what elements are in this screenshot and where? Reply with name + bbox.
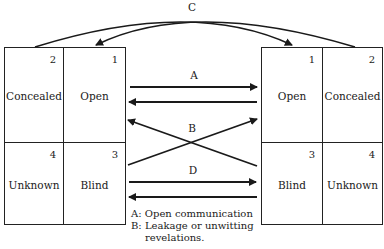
- cell-label: Blind: [64, 179, 125, 191]
- cell-number: 1: [112, 54, 118, 65]
- cell-label: Unknown: [5, 179, 63, 191]
- label-d: D: [185, 164, 201, 176]
- label-b: B: [184, 122, 200, 134]
- legend: A: Open communication B: Leakage or unwi…: [131, 208, 254, 244]
- cell-number: 3: [309, 149, 315, 160]
- cell-label: Open: [262, 90, 322, 102]
- left-cell-unknown: 4 Unknown: [5, 143, 64, 224]
- label-c: C: [184, 1, 200, 13]
- cell-label: Unknown: [323, 179, 382, 191]
- cell-label: Concealed: [323, 90, 382, 102]
- cell-label: Blind: [262, 179, 322, 191]
- right-cell-unknown: 4 Unknown: [323, 143, 382, 224]
- left-cell-blind: 3 Blind: [64, 143, 125, 224]
- cell-label: Open: [64, 90, 125, 102]
- left-johari-window: 2 Concealed 1 Open 4 Unknown 3 Blind: [4, 47, 126, 225]
- right-cell-concealed: 2 Concealed: [323, 48, 382, 143]
- label-a: A: [186, 69, 202, 81]
- right-johari-window: 1 Open 2 Concealed 3 Blind 4 Unknown: [261, 47, 383, 225]
- cell-number: 4: [369, 149, 375, 160]
- legend-item-a: A: Open communication: [131, 208, 254, 220]
- legend-text: Open communication: [145, 208, 253, 219]
- legend-key: A:: [131, 208, 142, 219]
- cell-label: Concealed: [5, 90, 63, 102]
- cell-number: 1: [309, 54, 315, 65]
- right-cell-open: 1 Open: [262, 48, 323, 143]
- left-cell-concealed: 2 Concealed: [5, 48, 64, 143]
- right-cell-blind: 3 Blind: [262, 143, 323, 224]
- cell-number: 3: [112, 149, 118, 160]
- cell-number: 4: [50, 149, 56, 160]
- cell-number: 2: [50, 54, 56, 65]
- legend-key: B:: [131, 220, 142, 231]
- legend-item-b-continuation: revelations.: [131, 232, 254, 244]
- legend-text: Leakage or unwitting: [145, 220, 254, 231]
- cell-number: 2: [369, 54, 375, 65]
- legend-item-b: B: Leakage or unwitting: [131, 220, 254, 232]
- left-cell-open: 1 Open: [64, 48, 125, 143]
